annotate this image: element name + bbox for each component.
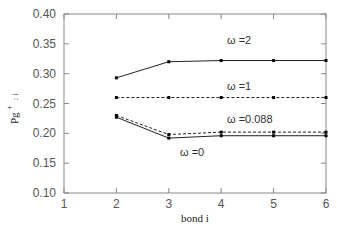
label-omega-2: ω =2: [227, 34, 251, 46]
label-omega-0088: ω =0.088: [227, 113, 273, 125]
data-point: [272, 134, 275, 137]
y-title-sup: +: [5, 105, 14, 110]
x-tick-label: 2: [113, 197, 120, 211]
y-title-sub: : i: [10, 93, 20, 101]
data-point: [167, 96, 170, 99]
data-point: [220, 131, 223, 134]
label-omega-0: ω =0: [180, 146, 204, 158]
plot-frame: [64, 14, 326, 193]
data-point: [220, 134, 223, 137]
data-point: [325, 134, 328, 137]
y-tick-label: 0.40: [33, 7, 57, 21]
svg-text:Pg + : i: Pg + : i: [2, 93, 20, 124]
x-tick-label: 1: [61, 197, 68, 211]
data-point: [115, 96, 118, 99]
data-point: [167, 137, 170, 140]
data-point: [272, 131, 275, 134]
plot-series: [115, 59, 328, 140]
data-point: [325, 96, 328, 99]
data-point: [167, 133, 170, 136]
data-point: [325, 59, 328, 62]
series-line: [116, 61, 326, 78]
line-chart: 1234560.100.150.200.250.300.350.40 ω =2 …: [0, 0, 337, 230]
data-point: [115, 116, 118, 119]
plot-axes: 1234560.100.150.200.250.300.350.40: [33, 7, 330, 211]
y-tick-label: 0.20: [33, 126, 57, 140]
data-point: [115, 76, 118, 79]
y-tick-label: 0.15: [33, 156, 57, 170]
x-tick-label: 4: [218, 197, 225, 211]
y-tick-label: 0.35: [33, 37, 57, 51]
y-tick-label: 0.30: [33, 67, 57, 81]
x-tick-label: 6: [323, 197, 330, 211]
x-axis-title: bond i: [181, 212, 209, 224]
y-tick-label: 0.25: [33, 97, 57, 111]
data-point: [220, 59, 223, 62]
y-axis-title: Pg + : i: [2, 93, 20, 124]
data-point: [272, 59, 275, 62]
y-title-main: Pg: [8, 112, 20, 124]
data-point: [325, 131, 328, 134]
x-tick-label: 5: [270, 197, 277, 211]
data-point: [220, 96, 223, 99]
y-tick-label: 0.10: [33, 186, 57, 200]
data-point: [167, 60, 170, 63]
label-omega-1: ω =1: [227, 80, 251, 92]
x-tick-label: 3: [165, 197, 172, 211]
data-point: [272, 96, 275, 99]
